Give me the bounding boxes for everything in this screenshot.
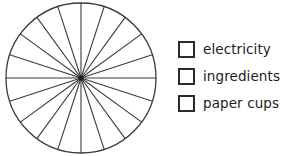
legend-label-electricity: electricity (203, 43, 271, 57)
legend-item-ingredients[interactable]: ingredients (178, 63, 289, 90)
legend-swatch-checkbox-icon[interactable] (178, 95, 195, 112)
blank-pie-chart (0, 0, 165, 156)
legend-label-paper-cups: paper cups (203, 97, 279, 111)
legend-label-ingredients: ingredients (203, 70, 280, 84)
pie-chart-figure: electricity ingredients paper cups (0, 0, 289, 156)
legend-item-paper-cups[interactable]: paper cups (178, 90, 289, 117)
chart-legend: electricity ingredients paper cups (178, 36, 289, 120)
legend-item-electricity[interactable]: electricity (178, 36, 289, 63)
legend-swatch-checkbox-icon[interactable] (178, 41, 195, 58)
legend-swatch-checkbox-icon[interactable] (178, 68, 195, 85)
pie-center-hub (78, 75, 83, 80)
